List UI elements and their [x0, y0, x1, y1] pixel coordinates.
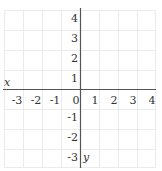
x-tick-label: 1: [92, 94, 99, 107]
x-axis-label: x: [4, 76, 11, 89]
y-tick-labels: 4 3 2 1 -1 -2 -3: [67, 12, 78, 164]
coordinate-plane: x y -3 -2 -1 0 1 2 3 4 4 3 2 1 -1 -2 -3: [0, 0, 162, 171]
x-tick-label: -2: [31, 94, 42, 107]
y-axis-label: y: [82, 151, 90, 164]
x-tick-label: -1: [50, 94, 61, 107]
y-tick-label: 2: [71, 52, 78, 65]
x-tick-label: 3: [130, 94, 137, 107]
y-tick-label: 1: [71, 72, 78, 85]
y-tick-label: 3: [71, 32, 78, 45]
x-tick-label: 4: [149, 94, 156, 107]
y-tick-label: -3: [67, 151, 78, 164]
y-tick-label: -1: [67, 111, 78, 124]
y-tick-label: -2: [67, 131, 78, 144]
x-tick-labels: -3 -2 -1 0 1 2 3 4: [12, 94, 156, 107]
x-tick-label: 2: [111, 94, 118, 107]
y-tick-label: 4: [71, 12, 78, 25]
x-tick-label: -3: [12, 94, 23, 107]
x-tick-label: 0: [73, 94, 80, 107]
